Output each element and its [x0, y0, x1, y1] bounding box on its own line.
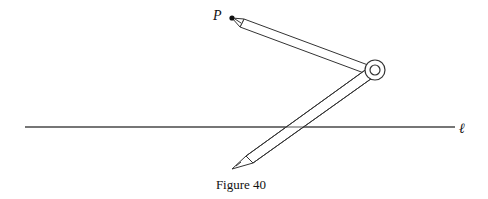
upper-compass-leg — [232, 18, 368, 73]
lower-compass-leg — [232, 68, 375, 169]
compass-diagram — [0, 0, 488, 199]
compass-pivot — [365, 60, 385, 80]
point-p — [229, 15, 234, 20]
figure-caption-wrap: Figure 40 — [0, 177, 488, 193]
line-l-label: ℓ — [459, 121, 465, 137]
figure-caption: Figure 40 — [216, 177, 266, 193]
point-p-label: P — [213, 8, 222, 24]
